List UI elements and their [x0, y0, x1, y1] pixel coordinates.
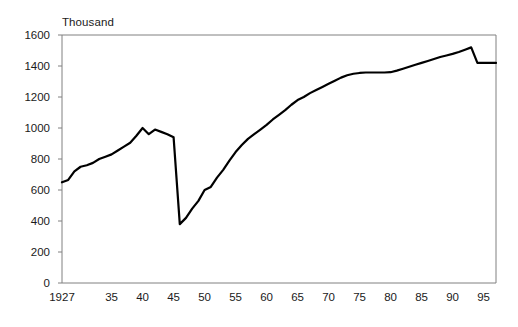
- axis-lines: [62, 35, 496, 283]
- plot-area: [0, 0, 518, 327]
- data-series-line: [62, 47, 496, 224]
- y-axis-tick-marks: [58, 35, 62, 283]
- chart-container: Thousand 02004006008001000120014001600 1…: [0, 0, 518, 327]
